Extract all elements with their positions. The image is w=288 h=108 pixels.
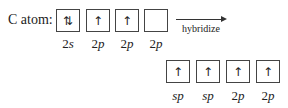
orbital-box-2p-2: ↑ [115,9,139,32]
atom-label: C atom: [8,12,53,28]
up-spin-icon: ↑ [203,65,213,79]
paired-spin-icon: ⇅ [63,14,73,28]
orbital-label-sp: sp [165,89,191,103]
up-spin-icon: ↑ [173,65,183,79]
up-spin-icon: ↑ [233,65,243,79]
orbital-label-2p: 2p [143,37,169,51]
orbital-box-2p-3 [144,9,168,32]
orbital-label-2p: 2p [85,37,111,51]
orbital-label-sp: sp [195,89,221,103]
hybridize-arrow-line [176,19,223,20]
arrow-head-icon [221,16,227,22]
orbital-box-sp-1: ↑ [166,60,190,83]
orbital-box-sp-2: ↑ [196,60,220,83]
hybridize-label: hybridize [176,23,226,35]
up-spin-icon: ↑ [263,65,273,79]
orbital-label-2s: 2s [55,37,81,51]
up-spin-icon: ↑ [122,14,132,28]
orbital-box-2p-1: ↑ [86,9,110,32]
orbital-box-2p-1: ↑ [226,60,250,83]
orbital-label-2p: 2p [255,89,281,103]
up-spin-icon: ↑ [93,14,103,28]
orbital-label-2p: 2p [225,89,251,103]
orbital-label-2p: 2p [114,37,140,51]
orbital-box-2p-2: ↑ [256,60,280,83]
orbital-box-2s: ⇅ [56,9,80,32]
